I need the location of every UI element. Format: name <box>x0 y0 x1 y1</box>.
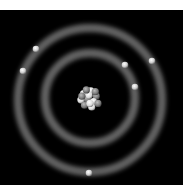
electron <box>33 46 40 53</box>
electron <box>132 84 139 91</box>
electron <box>20 68 27 75</box>
electron <box>122 62 129 69</box>
atom-diagram <box>0 10 183 185</box>
nucleus <box>77 86 101 110</box>
electron <box>149 58 156 65</box>
electron <box>86 170 93 177</box>
atom-diagram-panel <box>0 10 183 185</box>
